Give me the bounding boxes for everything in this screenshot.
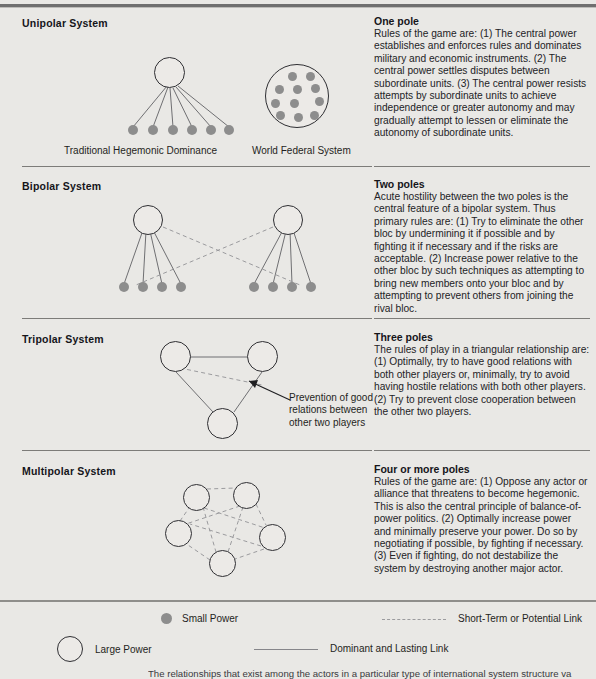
legend-small-power-icon <box>161 613 172 624</box>
legend-label-small-power: Small Power <box>182 613 238 624</box>
legend-short-term-link-icon <box>382 619 446 620</box>
text-block-four-or-more-poles: Four or more poles Rules of the game are… <box>374 463 590 575</box>
large-power-multipolar-c <box>259 524 286 551</box>
large-power-multipolar-d <box>209 550 236 577</box>
pole-title-four-or-more-poles: Four or more poles <box>374 463 590 475</box>
legend-dominant-link-icon <box>254 649 318 650</box>
large-power-multipolar-e <box>165 520 192 547</box>
legend-top-rule <box>0 600 596 602</box>
figure-page: Unipolar System Tradi <box>0 0 596 679</box>
figure-caption: The relationships that exist among the a… <box>148 668 596 679</box>
legend: Small Power Large Power Short-Term or Po… <box>0 604 596 656</box>
large-power-multipolar-a <box>183 484 210 511</box>
large-power-multipolar-b <box>233 482 260 509</box>
pole-body-four-or-more-poles: Rules of the game are: (1) Oppose any ac… <box>374 476 590 575</box>
legend-label-dominant-link: Dominant and Lasting Link <box>330 643 448 654</box>
legend-large-power-icon <box>57 636 83 662</box>
legend-label-large-power: Large Power <box>95 644 152 655</box>
legend-label-short-term-link: Short-Term or Potential Link <box>458 613 582 624</box>
